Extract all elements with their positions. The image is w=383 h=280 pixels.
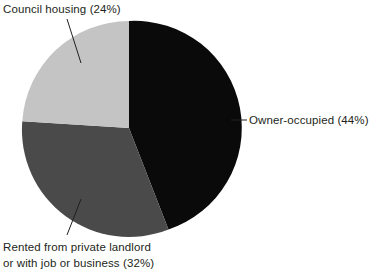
pie-label-rented-private-landlord: Rented from private landlord or with job… (3, 239, 154, 271)
pie-slice-council-housing (22, 21, 129, 128)
pie-label-council-housing: Council housing (24%) (3, 1, 121, 17)
pie-chart-figure: Council housing (24%) Owner-occupied (44… (0, 0, 383, 280)
pie-label-rented-line-2: or with job or business (32%) (3, 255, 154, 271)
pie-label-rented-line-1: Rented from private landlord (3, 239, 154, 255)
pie-chart-canvas (0, 0, 383, 280)
pie-label-owner-occupied: Owner-occupied (44%) (249, 112, 369, 128)
